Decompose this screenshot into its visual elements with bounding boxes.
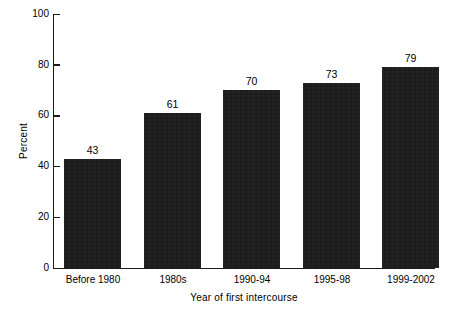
bar-chart: Percent 0 20 40 60 80 100 43 61 70 73	[0, 0, 454, 315]
y-tick-label-80: 80	[21, 60, 49, 70]
y-tick-label-0: 0	[21, 263, 49, 273]
bar-1999-2002[interactable]	[382, 67, 439, 268]
y-tick-label-60: 60	[21, 110, 49, 120]
bar-slot-3: 73	[303, 14, 360, 268]
y-tick-label-40: 40	[21, 161, 49, 171]
bar-1995-98[interactable]	[303, 83, 360, 268]
bar-value-0: 43	[50, 145, 135, 156]
bar-1980s[interactable]	[144, 113, 201, 268]
bar-slot-0: 43	[64, 14, 121, 268]
bar-before-1980[interactable]	[64, 159, 121, 268]
x-axis-title: Year of first intercourse	[53, 292, 435, 304]
x-tick-label-4: 1999-2002	[360, 274, 454, 286]
y-axis-title: Percent	[16, 14, 32, 268]
bar-slot-2: 70	[223, 14, 280, 268]
bar-value-1: 61	[130, 99, 215, 110]
x-axis-line	[53, 268, 435, 269]
bar-1990-94[interactable]	[223, 90, 280, 268]
y-tick-label-20: 20	[21, 212, 49, 222]
y-tick-label-100: 100	[21, 9, 49, 19]
bar-slot-4: 79	[382, 14, 439, 268]
bar-slot-1: 61	[144, 14, 201, 268]
plot-area: 43 61 70 73 79	[53, 14, 435, 268]
bar-value-3: 73	[289, 69, 374, 80]
bar-value-2: 70	[209, 76, 294, 87]
bar-value-4: 79	[368, 53, 453, 64]
